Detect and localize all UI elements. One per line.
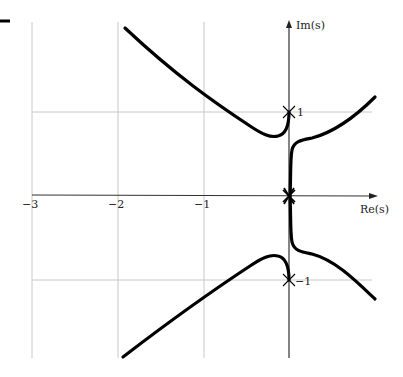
axes <box>32 27 372 358</box>
tick-label-x-m3: −3 <box>22 198 38 211</box>
tick-label-y-m1: −1 <box>295 275 311 288</box>
branch-upper-left <box>125 28 289 137</box>
grid <box>32 22 372 358</box>
im-axis-label: Im(s) <box>296 19 325 32</box>
re-axis-label: Re(s) <box>360 203 389 216</box>
re-axis <box>32 195 372 196</box>
tick-label-x-m2: −2 <box>108 198 124 211</box>
im-axis-arrow-icon <box>286 20 292 28</box>
root-locus-branches <box>123 28 375 357</box>
tick-label-x-m1: −1 <box>194 198 210 211</box>
re-axis-arrow-icon <box>369 193 378 199</box>
branch-lower-left <box>123 255 289 357</box>
root-locus-plot: Im(s) Re(s) −3 −2 −1 1 −1 <box>0 0 403 377</box>
tick-label-y-p1: 1 <box>297 106 304 119</box>
